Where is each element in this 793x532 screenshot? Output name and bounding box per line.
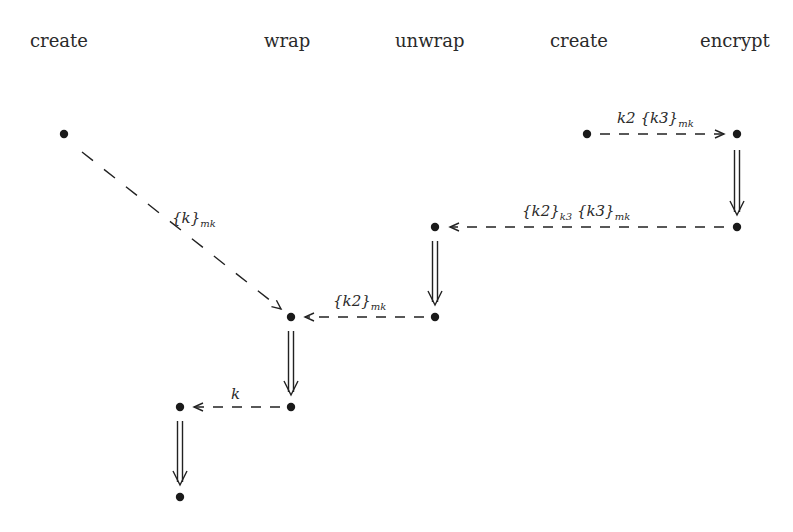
message-label-k2k3-k3mk: {k2}k3 {k3}mk [522,204,630,219]
label-main: k [231,385,240,403]
node-create2-start [583,130,591,138]
label-main: {k} [172,209,200,227]
label-main: {k3} [640,109,678,127]
node-wrap-start [287,313,295,321]
node-encrypt-start [733,130,741,138]
transition-arrow-create [173,421,187,485]
transition-arrow-encrypt [730,150,744,215]
node-create-mid [176,403,184,411]
label-sub: mk [200,218,216,229]
transition-arrow-wrap [284,331,298,395]
message-arrow-k-mk [82,152,281,309]
message-label-k: k [231,387,240,402]
label-main-2: {k3} [577,202,615,220]
node-unwrap-end [431,313,439,321]
node-create-end [176,493,184,501]
label-prefix: k2 [617,109,636,127]
protocol-diagram [0,0,793,532]
node-create-start [60,130,68,138]
label-main-1: {k2} [522,202,560,220]
node-wrap-end [287,403,295,411]
label-sub-1: k3 [560,211,572,222]
transition-arrow-unwrap [428,241,442,305]
label-sub: mk [678,118,694,129]
label-sub: mk [371,301,387,312]
label-main: {k2} [333,292,371,310]
message-label-k2-k3mk: k2 {k3}mk [617,111,694,126]
message-label-k2mk: {k2}mk [333,294,386,309]
node-unwrap-start [431,223,439,231]
label-sub-2: mk [615,211,631,222]
message-label-k-mk: {k}mk [172,211,216,226]
node-encrypt-end [733,223,741,231]
